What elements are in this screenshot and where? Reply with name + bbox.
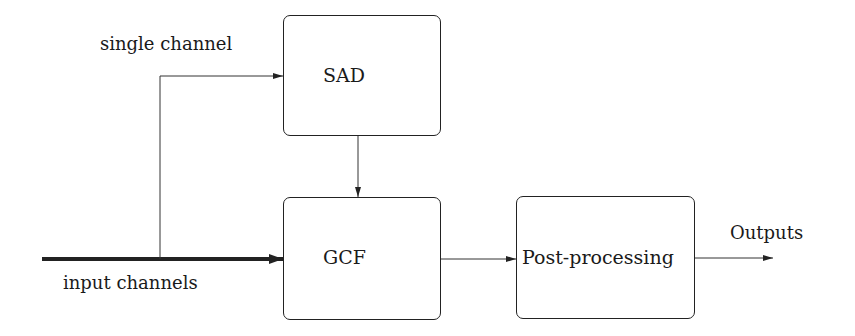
gcf-block: GCF	[283, 197, 441, 320]
sad-label: SAD	[323, 64, 365, 86]
input-channels-label: input channels	[63, 272, 198, 293]
gcf-label: GCF	[323, 246, 366, 268]
single-channel-label: single channel	[100, 33, 232, 54]
outputs-label: Outputs	[730, 222, 803, 243]
single-channel-arrow	[160, 76, 283, 259]
post-processing-label: Post-processing	[522, 246, 674, 268]
sad-block: SAD	[283, 15, 441, 136]
post-processing-block: Post-processing	[516, 196, 695, 319]
